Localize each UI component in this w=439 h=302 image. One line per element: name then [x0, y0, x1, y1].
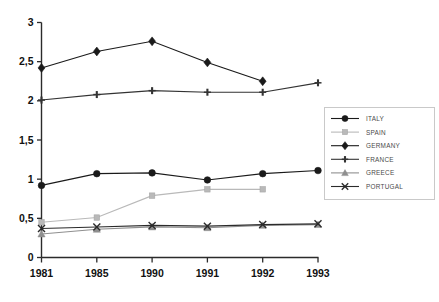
data-point-filled-diamond: [204, 58, 211, 67]
data-point-filled-circle: [204, 177, 211, 184]
legend-label: PORTUGAL: [366, 183, 403, 190]
legend-label: ITALY: [366, 115, 385, 122]
data-point-plus-cross: [315, 79, 322, 86]
x-tick-label: 1985: [85, 267, 109, 279]
legend-label: FRANCE: [366, 156, 394, 163]
series-italy: [38, 167, 321, 188]
series-spain: [39, 187, 266, 225]
square-marker: [343, 130, 348, 135]
x-tick-label: 1993: [306, 267, 330, 279]
square-marker: [39, 220, 44, 225]
series-germany: [38, 37, 266, 86]
data-point-filled-square: [149, 193, 154, 198]
square-marker: [205, 187, 210, 192]
y-tick-label: 0: [28, 251, 34, 263]
chart-svg: 00,511,522,53 198119851990199119921993 I…: [0, 0, 439, 302]
series-greece: [38, 221, 322, 237]
x-tick-marks: [42, 258, 319, 263]
circle-marker: [342, 115, 348, 121]
square-marker: [94, 215, 99, 220]
data-point-filled-square: [94, 215, 99, 220]
legend-label: GREECE: [366, 169, 395, 176]
y-tick-label: 2: [28, 94, 34, 106]
data-point-filled-diamond: [38, 64, 45, 73]
data-point-filled-circle: [149, 170, 156, 177]
line-chart-figure: 00,511,522,53 198119851990199119921993 I…: [0, 0, 439, 302]
data-point-plus-cross: [204, 89, 211, 96]
diamond-marker: [204, 58, 211, 67]
data-point-filled-square: [343, 130, 348, 135]
data-point-filled-square: [205, 187, 210, 192]
y-tick-label: 3: [28, 16, 34, 28]
y-tick-label: 0,5: [19, 212, 34, 224]
diamond-marker: [149, 37, 156, 46]
y-tick-labels: 00,511,522,53: [19, 16, 34, 263]
diamond-marker: [259, 77, 266, 86]
data-point-filled-circle: [259, 170, 266, 177]
circle-marker: [149, 170, 156, 177]
legend-item-portugal[interactable]: PORTUGAL: [331, 183, 403, 190]
data-point-filled-diamond: [93, 47, 100, 56]
data-point-filled-circle: [38, 182, 45, 189]
circle-marker: [259, 170, 266, 177]
data-point-filled-diamond: [149, 37, 156, 46]
square-marker: [149, 193, 154, 198]
data-point-plus-cross: [259, 89, 266, 96]
data-point-filled-circle: [94, 170, 101, 177]
x-tick-label: 1981: [30, 267, 54, 279]
legend-label: GERMANY: [366, 142, 401, 149]
x-tick-label: 1991: [196, 267, 220, 279]
series-line-germany: [42, 41, 263, 81]
series-line-italy: [42, 171, 319, 186]
x-axis: 198119851990199119921993: [30, 258, 330, 279]
x-tick-label: 1990: [140, 267, 164, 279]
chart-legend: ITALYSPAINGERMANYFRANCEGREECEPORTUGAL: [325, 108, 435, 200]
circle-marker: [204, 177, 211, 184]
y-tick-label: 2,5: [19, 55, 34, 67]
data-point-plus-cross: [149, 87, 156, 94]
circle-marker: [38, 182, 45, 189]
data-point-filled-diamond: [259, 77, 266, 86]
x-tick-label: 1992: [251, 267, 275, 279]
data-point-plus-cross: [38, 97, 45, 104]
series-line-france: [42, 83, 319, 100]
y-tick-label: 1: [28, 173, 34, 185]
series-france: [38, 79, 322, 103]
circle-marker: [315, 167, 322, 174]
data-point-plus-cross: [93, 91, 100, 98]
x-tick-labels: 198119851990199119921993: [30, 267, 330, 279]
series-layer: [38, 37, 322, 237]
data-point-filled-circle: [315, 167, 322, 174]
circle-marker: [94, 170, 101, 177]
legend-label: SPAIN: [366, 129, 386, 136]
data-point-filled-circle: [342, 115, 348, 121]
square-marker: [260, 187, 265, 192]
data-point-filled-square: [39, 220, 44, 225]
data-point-filled-square: [260, 187, 265, 192]
y-tick-label: 1,5: [19, 134, 34, 146]
diamond-marker: [38, 64, 45, 73]
diamond-marker: [93, 47, 100, 56]
